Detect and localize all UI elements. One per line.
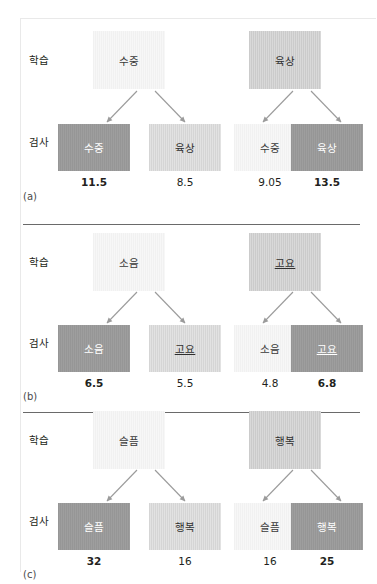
test-box-c-4: 행복	[291, 503, 363, 550]
test-box-c-1-label: 슬픔	[84, 519, 105, 534]
study-box-c-1-label: 슬픔	[119, 433, 140, 448]
study-box-c-2: 행복	[249, 411, 321, 469]
arrow-study1-to-test2	[155, 470, 185, 501]
study-box-a-1: 수중	[93, 31, 165, 89]
test-box-b-2: 고요	[149, 325, 221, 372]
arrow-study1-to-test2	[155, 292, 185, 323]
arrow-study1-to-test1	[107, 91, 137, 122]
row-label-study-a: 학습	[29, 52, 49, 67]
test-box-b-4-label: 고요	[317, 341, 338, 356]
score-c-4: 25	[291, 555, 363, 567]
test-box-c-1: 슬픔	[58, 503, 130, 550]
panel-c: 학습 검사 슬픔 행복 슬픔 행복 슬픔 행복 32 16 16 25 (c)	[21, 397, 377, 584]
arrow-study2-to-test4	[311, 91, 341, 122]
test-box-a-2-label: 육상	[175, 140, 196, 155]
panel-a: 학습 검사 수중 육상 수중 육상 수중 육상 11.5 8.5 9.05 13…	[21, 19, 377, 209]
arrow-study2-to-test3	[263, 470, 293, 501]
test-box-a-4-label: 육상	[317, 140, 338, 155]
figure-container: 학습 검사 수중 육상 수중 육상 수중 육상 11.5 8.5 9.05 13…	[20, 18, 376, 572]
score-a-1: 11.5	[58, 176, 130, 188]
score-c-1: 32	[58, 555, 130, 567]
test-box-b-1-label: 소음	[84, 341, 105, 356]
panel-letter-c: (c)	[23, 569, 36, 580]
test-box-a-2: 육상	[149, 124, 221, 171]
study-box-a-2-label: 육상	[275, 53, 296, 68]
arrow-study2-to-test4	[311, 292, 341, 323]
study-box-a-1-label: 수중	[119, 53, 140, 68]
test-box-b-4: 고요	[291, 325, 363, 372]
arrow-study2-to-test3	[263, 292, 293, 323]
arrow-study2-to-test4	[311, 470, 341, 501]
arrow-study2-to-test3	[263, 91, 293, 122]
row-label-study-c: 학습	[29, 432, 49, 447]
test-box-b-1: 소음	[58, 325, 130, 372]
test-box-a-1: 수중	[58, 124, 130, 171]
test-box-a-4: 육상	[291, 124, 363, 171]
score-b-2: 5.5	[149, 377, 221, 389]
study-box-b-1: 소음	[93, 233, 165, 291]
row-label-study-b: 학습	[29, 254, 49, 269]
study-box-b-2: 고요	[249, 233, 321, 291]
study-box-c-1: 슬픔	[93, 411, 165, 469]
study-box-b-1-label: 소음	[119, 255, 140, 270]
score-c-2: 16	[149, 555, 221, 567]
arrow-study1-to-test1	[107, 292, 137, 323]
arrow-study1-to-test1	[107, 470, 137, 501]
test-box-c-3-label: 슬픔	[260, 519, 281, 534]
test-box-c-4-label: 행복	[317, 519, 338, 534]
test-box-b-3-label: 소음	[260, 341, 281, 356]
score-a-2: 8.5	[149, 176, 221, 188]
panel-letter-a: (a)	[23, 191, 37, 202]
arrow-study1-to-test2	[155, 91, 185, 122]
panel-b: 학습 검사 소음 고요 소음 고요 소음 고요 6.5 5.5 4.8 6.8 …	[21, 209, 377, 399]
study-box-c-2-label: 행복	[275, 433, 296, 448]
score-b-4: 6.8	[291, 377, 363, 389]
row-label-test-b: 검사	[29, 335, 49, 350]
test-box-b-2-label: 고요	[175, 341, 196, 356]
test-box-a-3-label: 수중	[260, 140, 281, 155]
row-label-test-c: 검사	[29, 513, 49, 528]
test-box-c-2: 행복	[149, 503, 221, 550]
study-box-b-2-label: 고요	[275, 255, 296, 270]
row-label-test-a: 검사	[29, 134, 49, 149]
score-b-1: 6.5	[58, 377, 130, 389]
test-box-c-2-label: 행복	[175, 519, 196, 534]
score-a-4: 13.5	[291, 176, 363, 188]
study-box-a-2: 육상	[249, 31, 321, 89]
test-box-a-1-label: 수중	[84, 140, 105, 155]
